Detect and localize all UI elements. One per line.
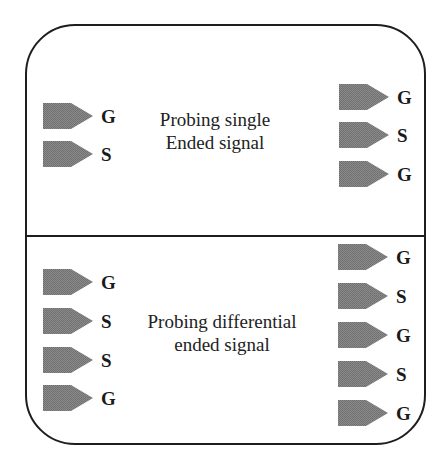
pin-label: G bbox=[101, 104, 116, 130]
panel-divider bbox=[25, 235, 426, 237]
caption-line-1: Probing single bbox=[140, 108, 290, 131]
probe-tip-icon bbox=[338, 361, 388, 387]
pin-label: G bbox=[397, 162, 412, 188]
caption-line-2: Ended signal bbox=[140, 131, 290, 154]
probe-tip-icon bbox=[43, 269, 93, 295]
single-ended-caption: Probing single Ended signal bbox=[140, 108, 290, 154]
pin-label: G bbox=[101, 270, 116, 296]
probe-tip-icon bbox=[339, 161, 389, 187]
probe-tip-icon bbox=[338, 322, 388, 348]
probe-tip-icon bbox=[338, 400, 388, 426]
probe-tip-icon bbox=[338, 283, 388, 309]
pin-label: G bbox=[101, 386, 116, 412]
pin-label: G bbox=[396, 245, 411, 271]
probe-tip-icon bbox=[43, 347, 93, 373]
pin-label: S bbox=[397, 123, 408, 149]
pin-label: S bbox=[101, 309, 112, 335]
pin-label: S bbox=[101, 142, 112, 168]
differential-caption: Probing differential ended signal bbox=[130, 310, 314, 356]
pin-label: G bbox=[396, 323, 411, 349]
pin-label: G bbox=[397, 85, 412, 111]
pin-label: S bbox=[396, 362, 407, 388]
probe-tip-icon bbox=[339, 84, 389, 110]
caption-line-1: Probing differential bbox=[130, 310, 314, 333]
probe-tip-icon bbox=[338, 244, 388, 270]
probe-tip-icon bbox=[43, 141, 93, 167]
probe-tip-icon bbox=[43, 103, 93, 129]
caption-line-2: ended signal bbox=[130, 333, 314, 356]
probe-tip-icon bbox=[43, 385, 93, 411]
pin-label: S bbox=[396, 284, 407, 310]
pin-label: G bbox=[396, 401, 411, 427]
probe-tip-icon bbox=[43, 308, 93, 334]
probe-tip-icon bbox=[339, 122, 389, 148]
pin-label: S bbox=[101, 348, 112, 374]
